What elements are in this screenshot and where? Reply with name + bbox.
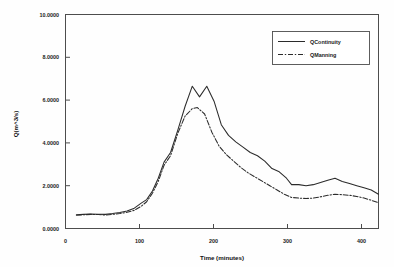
legend-box: [273, 32, 370, 65]
y-axis-title: Q(m^3/s): [12, 111, 19, 138]
legend-label-qcontinuity: QContinuity: [310, 39, 341, 45]
x-axis-title: Time (minutes): [200, 254, 244, 261]
x-tick-label-300: 300: [283, 238, 292, 244]
x-tick-label-400: 400: [357, 238, 366, 244]
y-tick-label-0: 0.0000: [43, 226, 60, 232]
series-line-qmanning: [76, 108, 378, 216]
legend: QContinuity QManning: [273, 32, 370, 65]
y-tick-label-10: 10.0000: [40, 12, 60, 18]
hydrograph-chart: 0.0000 2.0000 4.0000 6.0000 8.0000 10.00…: [0, 0, 394, 267]
y-tick-label-4: 4.0000: [43, 140, 60, 146]
x-axis: 0 100 200 300 400: [64, 224, 366, 244]
x-tick-label-0: 0: [64, 238, 67, 244]
series-line-qcontinuity: [76, 86, 378, 215]
x-tick-label-200: 200: [209, 238, 218, 244]
x-tick-label-100: 100: [135, 238, 144, 244]
y-tick-label-8: 8.0000: [43, 54, 60, 60]
y-tick-label-2: 2.0000: [43, 183, 60, 189]
chart-figure: 0.0000 2.0000 4.0000 6.0000 8.0000 10.00…: [0, 0, 394, 267]
legend-label-qmanning: QManning: [310, 52, 336, 58]
y-tick-label-6: 6.0000: [43, 97, 60, 103]
